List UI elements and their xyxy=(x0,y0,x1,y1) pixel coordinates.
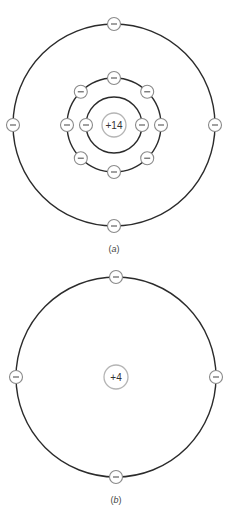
electron-minus-icon xyxy=(108,18,121,31)
electron-minus-icon xyxy=(74,85,87,98)
figure-caption-b: (b) xyxy=(110,495,121,505)
core-charge-label: +4 xyxy=(110,372,122,383)
electron-minus-icon xyxy=(61,119,74,132)
electron-minus-icon xyxy=(80,119,93,132)
nucleus: +14 xyxy=(102,113,126,137)
electron-minus-icon xyxy=(209,119,222,132)
electron-minus-icon xyxy=(141,152,154,165)
silicon-atom-full-model: +14 (a) xyxy=(7,18,222,255)
electron-minus-icon xyxy=(108,220,121,233)
electron-minus-icon xyxy=(10,371,23,384)
electron-minus-icon xyxy=(110,271,123,284)
silicon-atom-diagram: +14 (a) +4 (b) xyxy=(0,0,236,519)
electron-minus-icon xyxy=(110,471,123,484)
silicon-atom-simplified-model: +4 (b) xyxy=(10,271,223,506)
electron-minus-icon xyxy=(108,166,121,179)
figure-caption-a: (a) xyxy=(108,244,119,254)
electron-minus-icon xyxy=(7,119,20,132)
electron-minus-icon xyxy=(155,119,168,132)
electron-minus-icon xyxy=(108,72,121,85)
nucleus-charge-label: +14 xyxy=(106,120,123,131)
electron-minus-icon xyxy=(136,119,149,132)
electron-minus-icon xyxy=(74,152,87,165)
electron-minus-icon xyxy=(210,371,223,384)
core: +4 xyxy=(104,365,128,389)
electron-minus-icon xyxy=(141,85,154,98)
